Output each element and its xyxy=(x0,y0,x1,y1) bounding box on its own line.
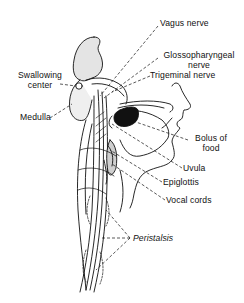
label-glossopharyngeal-line2: nerve xyxy=(156,61,242,71)
leader-vocal-cords xyxy=(112,164,165,200)
label-bolus-of-food: Bolus of food xyxy=(188,134,234,153)
label-epiglottis: Epiglottis xyxy=(163,178,199,188)
label-vagus-nerve: Vagus nerve xyxy=(160,19,209,29)
label-swallowing-center: Swallowing center xyxy=(16,71,64,90)
label-medulla: Medulla xyxy=(20,113,51,123)
label-vocal-cords: Vocal cords xyxy=(166,196,212,206)
uvula xyxy=(109,116,112,128)
label-peristalsis: Peristalsis xyxy=(133,234,173,244)
back-outline xyxy=(77,120,86,290)
brain-outline xyxy=(73,37,102,81)
leader-peristalsis-1 xyxy=(106,210,130,238)
trachea xyxy=(120,170,123,212)
swallowing-diagram: Vagus nerve Glossopharyngeal nerve Trige… xyxy=(0,0,244,303)
label-uvula: Uvula xyxy=(183,164,205,174)
label-trigeminal-nerve: Trigeminal nerve xyxy=(150,71,215,81)
swallowing-center-marker xyxy=(76,83,82,89)
leader-epiglottis xyxy=(110,150,162,182)
label-swallowing-center-line2: center xyxy=(16,81,64,91)
leader-trigeminal xyxy=(112,76,150,92)
leader-medulla xyxy=(50,104,72,118)
bolus xyxy=(114,107,139,127)
leader-vagus xyxy=(100,26,158,96)
label-bolus-line2: food xyxy=(188,144,234,154)
larynx xyxy=(107,140,117,175)
leader-bolus xyxy=(130,120,188,140)
label-glossopharyngeal-nerve: Glossopharyngeal nerve xyxy=(156,51,242,70)
